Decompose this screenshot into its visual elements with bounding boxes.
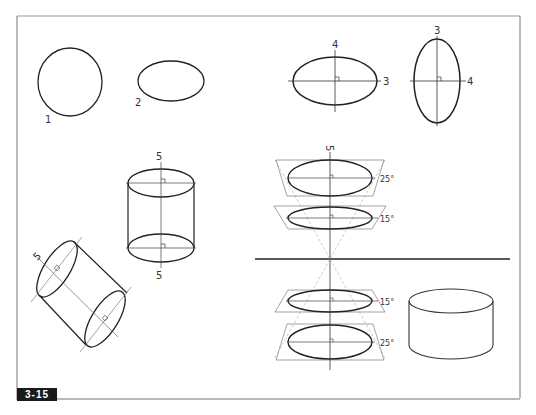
ellipse-plain-figure: 2 <box>135 61 204 108</box>
label-minor-4v: 4 <box>467 76 473 87</box>
label-top-25: 25° <box>380 175 394 184</box>
cylinder-upright: 5 5 <box>126 151 196 281</box>
figure-number: 3-15 <box>17 388 57 401</box>
label-major-3: 3 <box>383 76 389 87</box>
label-tilted-5: 5 <box>31 250 43 262</box>
circle-figure: 1 <box>38 48 102 125</box>
label-top-15: 15° <box>380 215 394 224</box>
degree-ellipse-diagram: 25° 5 15° 15° 25° <box>274 145 394 370</box>
label-bottom-15: 15° <box>380 298 394 307</box>
ellipse-horizontal-axes: 4 3 <box>288 39 389 112</box>
label-cyl-top-5: 5 <box>156 151 162 162</box>
ellipse-vertical-axes: 3 4 <box>410 25 473 126</box>
cylinder-tilted: 5 <box>29 235 133 353</box>
label-cyl-bottom-5: 5 <box>156 270 162 281</box>
label-2: 2 <box>135 97 141 108</box>
label-major-3v: 3 <box>434 25 440 36</box>
label-bottom-25: 25° <box>380 339 394 348</box>
label-1: 1 <box>45 114 51 125</box>
figure-frame <box>17 16 520 400</box>
label-axis-5: 5 <box>324 145 335 151</box>
cylinder-short <box>409 289 493 359</box>
figure-canvas: 1 2 4 3 3 4 5 5 <box>0 0 536 415</box>
label-minor-4: 4 <box>332 39 338 50</box>
